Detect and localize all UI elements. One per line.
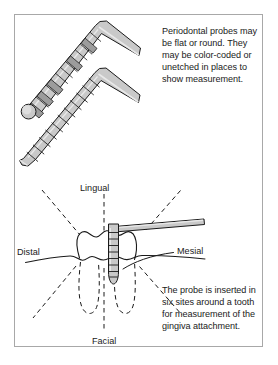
probes-description-text: Periodontal probes may be flat or round.… <box>162 25 262 85</box>
label-distal: Distal <box>17 247 40 258</box>
label-mesial: Mesial <box>177 246 203 257</box>
label-lingual: Lingual <box>80 183 109 194</box>
tooth-roots-dashed <box>79 262 135 314</box>
sites-description-text: The probe is inserted in six sites aroun… <box>162 284 264 332</box>
ray-distal-facial <box>33 266 76 318</box>
measurement-site-rays-lower <box>33 266 182 318</box>
root-distal <box>79 262 99 314</box>
tooth-crown-outline <box>77 231 137 260</box>
figure-container: Periodontal probes may be flat or round.… <box>0 0 278 365</box>
label-facial: Facial <box>92 336 116 347</box>
upper-probe-tip-highlight <box>22 105 31 114</box>
ray-distal-lingual <box>42 190 80 235</box>
lower-probe-graduations <box>27 78 100 161</box>
